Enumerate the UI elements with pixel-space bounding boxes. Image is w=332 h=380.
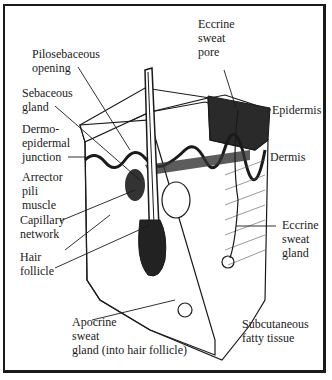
label-sebaceous-gland: Sebaceous gland	[22, 86, 73, 114]
label-capillary-network: Capillary network	[20, 213, 65, 241]
label-eccrine-sweat-gland: Eccrine sweat gland	[282, 218, 319, 260]
label-dermo-epidermal-junction: Dermo- epidermal junction	[22, 122, 70, 164]
label-apocrine-sweat-gland: Apocrine sweat gland (into hair follicle…	[72, 315, 187, 357]
label-pilosebaceous-opening: Pilosebaceous opening	[32, 47, 100, 75]
label-hair-follicle: Hair follicle	[20, 250, 54, 278]
label-arrector-pili-muscle: Arrector pili muscle	[22, 170, 63, 212]
label-subcutaneous-fatty-tissue: Subcutaneous fatty tissue	[242, 317, 309, 345]
label-epidermis: Epidermis	[272, 103, 321, 117]
label-eccrine-sweat-pore: Eccrine sweat pore	[198, 17, 235, 59]
label-dermis: Dermis	[270, 150, 305, 164]
